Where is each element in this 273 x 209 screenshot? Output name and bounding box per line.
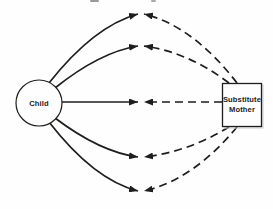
substitute-mother-node: Substitute Mother xyxy=(223,84,264,129)
child-label: Child xyxy=(29,99,49,108)
child-node: Child xyxy=(16,80,62,126)
substitute-mother-label-line2: Mother xyxy=(229,105,255,114)
diagram-svg: Child Substitute Mother xyxy=(0,0,273,209)
substitute-mother-label-line1: Substitute xyxy=(223,95,261,104)
figure-diagram: Child Substitute Mother xyxy=(0,0,273,209)
edge-4-solid-path xyxy=(55,118,138,157)
edge-4-dashed-path xyxy=(144,127,229,157)
edge-5-solid-path xyxy=(49,122,138,191)
edge-2-solid-path xyxy=(55,46,138,88)
edge-5-dashed-path xyxy=(144,127,237,191)
edge-2-dashed-path xyxy=(144,46,229,83)
cropped-caption-fragment xyxy=(90,0,156,2)
